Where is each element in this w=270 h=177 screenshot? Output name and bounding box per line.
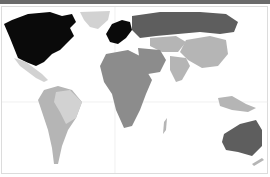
region-russia[interactable] <box>132 12 238 38</box>
region-madagascar[interactable] <box>163 118 167 134</box>
region-india[interactable] <box>170 56 190 82</box>
region-western-europe[interactable] <box>106 20 132 44</box>
region-greenland[interactable] <box>80 11 110 29</box>
region-southeast-asia[interactable] <box>218 96 256 112</box>
world-map <box>0 0 270 177</box>
region-north-america[interactable] <box>4 12 76 66</box>
region-australia[interactable] <box>222 120 262 156</box>
map-container <box>0 0 270 177</box>
region-new-zealand[interactable] <box>252 158 264 166</box>
